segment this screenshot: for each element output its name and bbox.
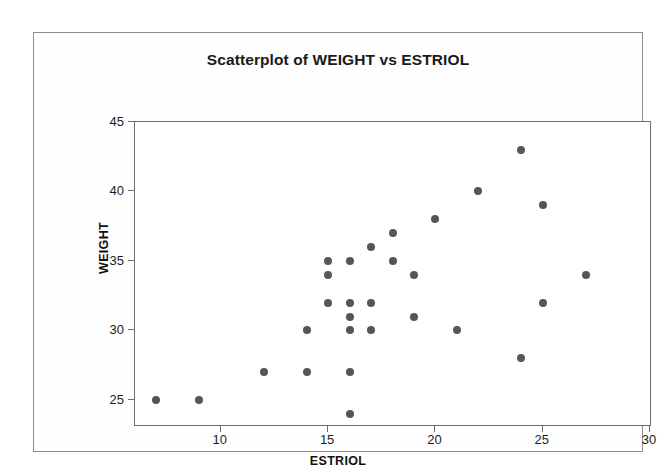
data-point <box>303 368 311 376</box>
x-axis-tick-label: 25 <box>534 432 548 447</box>
data-point <box>303 326 311 334</box>
data-point <box>453 326 461 334</box>
scatter-points-layer <box>135 122 650 425</box>
data-point <box>539 299 547 307</box>
data-point <box>367 243 375 251</box>
y-axis-tick-mark <box>128 399 134 400</box>
data-point <box>582 271 590 279</box>
data-point <box>346 257 354 265</box>
x-axis-title: ESTRIOL <box>34 454 642 468</box>
y-axis-tick-mark <box>128 260 134 261</box>
x-axis-tick-label: 15 <box>320 432 334 447</box>
y-axis-tick-label: 35 <box>96 252 124 267</box>
y-axis-tick-label: 30 <box>96 322 124 337</box>
data-point <box>367 299 375 307</box>
x-axis-tick-label: 10 <box>213 432 227 447</box>
data-point <box>324 257 332 265</box>
data-point <box>346 410 354 418</box>
data-point <box>474 187 482 195</box>
data-point <box>195 396 203 404</box>
data-point <box>346 326 354 334</box>
data-point <box>539 201 547 209</box>
data-point <box>346 368 354 376</box>
data-point <box>346 299 354 307</box>
y-axis-tick-mark <box>128 190 134 191</box>
data-point <box>260 368 268 376</box>
chart-title: Scatterplot of WEIGHT vs ESTRIOL <box>34 51 642 69</box>
data-point <box>324 299 332 307</box>
data-point <box>346 313 354 321</box>
y-axis-tick-label: 25 <box>96 391 124 406</box>
data-point <box>389 257 397 265</box>
data-point <box>367 326 375 334</box>
data-point <box>324 271 332 279</box>
data-point <box>152 396 160 404</box>
x-axis-tick-label: 20 <box>427 432 441 447</box>
x-axis-tick-label: 30 <box>642 432 656 447</box>
page-frame: Scatterplot of WEIGHT vs ESTRIOL WEIGHT … <box>33 32 643 452</box>
data-point <box>389 229 397 237</box>
data-point <box>410 313 418 321</box>
y-axis-tick-label: 45 <box>96 114 124 129</box>
data-point <box>517 146 525 154</box>
y-axis-tick-mark <box>128 121 134 122</box>
plot-area <box>134 121 651 426</box>
y-axis-tick-mark <box>128 329 134 330</box>
data-point <box>410 271 418 279</box>
y-axis-tick-label: 40 <box>96 183 124 198</box>
data-point <box>517 354 525 362</box>
data-point <box>431 215 439 223</box>
